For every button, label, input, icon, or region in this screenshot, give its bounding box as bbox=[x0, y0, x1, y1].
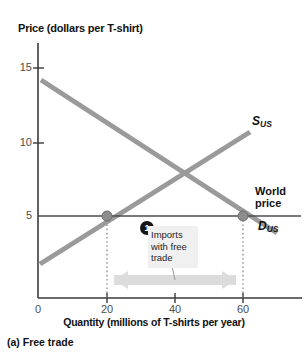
demand-curve-label-subscript: US bbox=[267, 224, 279, 234]
supply-curve-label-subscript: US bbox=[260, 119, 272, 129]
world-price-label-line2: price bbox=[255, 198, 286, 210]
y-tick-label-10: 10 bbox=[10, 136, 32, 148]
world-price-label-line1: World bbox=[255, 186, 286, 198]
x-tick-label-20: 20 bbox=[94, 303, 120, 315]
x-tick-label-40: 40 bbox=[162, 303, 188, 315]
world-price-label: World price bbox=[255, 186, 286, 209]
x-tick-label-0: 0 bbox=[25, 303, 51, 315]
marker-demand-at-world-price bbox=[238, 211, 248, 221]
free-trade-figure: Price (dollars per T-shirt) bbox=[0, 0, 308, 354]
plot-area bbox=[0, 0, 308, 354]
x-tick-label-60: 60 bbox=[230, 303, 256, 315]
x-axis-title: Quantity (millions of T-shirts per year) bbox=[0, 316, 308, 328]
supply-curve-label-letter: S bbox=[252, 114, 260, 128]
demand-curve-dus bbox=[41, 80, 277, 233]
supply-curve-label: SUS bbox=[252, 114, 272, 128]
y-tick-label-15: 15 bbox=[10, 61, 32, 73]
figure-caption: (a) Free trade bbox=[7, 336, 74, 348]
demand-curve-label: DUS bbox=[258, 219, 278, 233]
marker-supply-at-world-price bbox=[102, 211, 112, 221]
y-tick-label-5: 5 bbox=[10, 209, 32, 221]
demand-curve-label-letter: D bbox=[258, 219, 267, 233]
imports-annotation: Imports with free trade bbox=[148, 226, 198, 268]
